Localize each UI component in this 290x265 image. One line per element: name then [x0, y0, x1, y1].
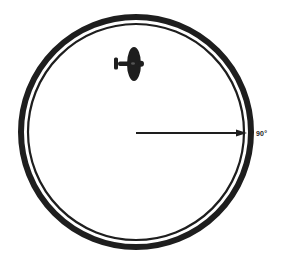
heading-arrow	[136, 130, 247, 137]
heading-diagram	[0, 0, 290, 265]
aircraft-icon	[114, 47, 144, 81]
heading-label-90: 90°	[256, 130, 267, 137]
